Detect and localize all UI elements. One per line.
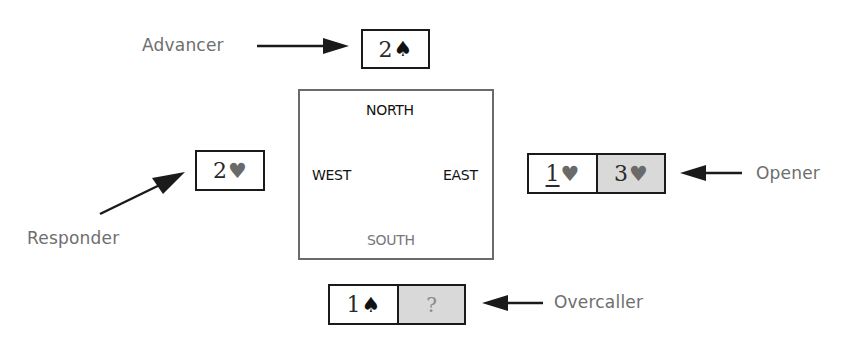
advancer-arrow-icon — [257, 38, 349, 54]
bid-level: 3 — [614, 161, 628, 186]
opener-arrow-icon — [680, 165, 742, 181]
opener-bid-box-2: 3♥ — [596, 153, 666, 194]
heart-icon: ♥ — [228, 159, 247, 183]
responder-bid-box: 2♥ — [195, 150, 265, 191]
bid-level: 2 — [379, 37, 393, 62]
advancer-bid-box: 2♠ — [361, 29, 430, 69]
spade-icon: ♠ — [362, 293, 381, 317]
east-label: EAST — [443, 167, 478, 183]
north-label: NORTH — [366, 102, 414, 118]
heart-icon: ♥ — [629, 162, 648, 186]
advancer-label: Advancer — [142, 35, 224, 55]
west-label: WEST — [312, 167, 351, 183]
overcaller-bid-box-1: 1♠ — [328, 284, 399, 325]
unknown-bid: ? — [426, 293, 437, 317]
compass-table: NORTH WEST EAST SOUTH — [298, 89, 494, 260]
responder-arrow-icon — [100, 172, 185, 214]
south-label: SOUTH — [367, 232, 415, 248]
overcaller-label: Overcaller — [554, 292, 643, 312]
bid-level: 1 — [347, 292, 361, 317]
bid-level: 2 — [213, 158, 227, 183]
bid-level: 1 — [546, 161, 560, 186]
heart-icon: ♥ — [561, 162, 580, 186]
overcaller-bid-box-2: ? — [397, 284, 466, 325]
opener-label: Opener — [756, 163, 820, 183]
spade-icon: ♠ — [394, 37, 413, 61]
opener-bid-box-1: 1♥ — [527, 153, 598, 194]
overcaller-arrow-icon — [482, 295, 543, 311]
responder-label: Responder — [27, 228, 119, 248]
